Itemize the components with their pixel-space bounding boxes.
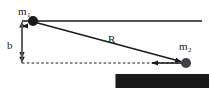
mass1-label-subscript: 1 xyxy=(27,11,31,19)
separation-vector-label-group: R xyxy=(108,30,115,46)
relative-velocity-label-subscript: rel xyxy=(153,79,159,85)
separation-vector-label: R xyxy=(108,30,115,46)
physics-diagram-two-body-scattering: m1 m2 b R v rel xyxy=(0,0,209,88)
mass1-label: m1 xyxy=(18,2,30,18)
impact-parameter-label-base: b xyxy=(7,39,13,51)
relative-velocity-label: v rel xyxy=(147,69,159,85)
mass1-label-base: m xyxy=(18,5,27,17)
impact-parameter-label: b xyxy=(7,36,13,52)
relative-velocity-label-group: v xyxy=(147,69,153,85)
